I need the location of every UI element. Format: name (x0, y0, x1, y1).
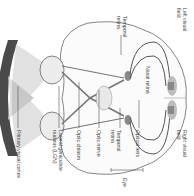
left-visual-field-label-2: field (176, 8, 182, 18)
left-eyeball (40, 56, 64, 84)
temporal-retina-left-label-2: retina (116, 16, 122, 29)
optic-nerve-label: Optic nerve (96, 130, 102, 157)
optical-lens-label: Optical lens (135, 130, 141, 158)
eye-label: Eye (122, 178, 128, 187)
temporal-retina-right-label-2: retina (110, 130, 116, 143)
optic-chiasm-label: Optic chiasm (76, 130, 82, 160)
optic-chiasm (96, 86, 112, 110)
primary-visual-cortex-label: Primary visual cortex (16, 130, 22, 179)
visual-pathway-diagram: Left visual field Right visual field Tem… (0, 0, 194, 196)
lgn-label-2: nucleus (LGN) (52, 130, 58, 164)
nasal-retina-label: Nasal retina (145, 66, 151, 94)
right-visual-field-label-2: field (176, 130, 182, 140)
